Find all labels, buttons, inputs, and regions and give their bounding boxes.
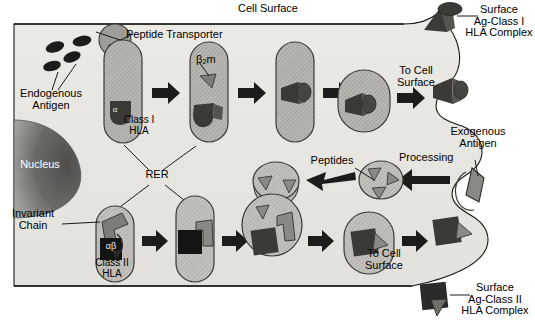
class-ii-vesicle-2	[176, 196, 214, 282]
pathway-illustration	[0, 0, 535, 326]
label-surface-ag-class-ii: Surface Ag-Class II HLA Complex	[455, 282, 535, 317]
label-peptide-transporter: Peptide Transporter	[126, 29, 223, 41]
diagram-canvas: Cell Surface Peptide Transporter Endogen…	[0, 0, 535, 326]
label-rer: RER	[138, 169, 176, 181]
class-i-vesicle-4	[338, 70, 390, 132]
label-to-cell-surface-top: To Cell Surface	[392, 65, 440, 88]
label-class-i-hla: Class I HLA	[112, 115, 166, 136]
label-surface-ag-class-i: Surface Ag-Class I HLA Complex	[462, 4, 535, 39]
label-exogenous-antigen: Exogenous Antigen	[440, 126, 516, 149]
label-endogenous-antigen: Endogenous Antigen	[8, 88, 94, 111]
label-to-cell-surface-bottom: To Cell Surface	[360, 248, 408, 271]
label-class-ii-hla: Class II HLA	[84, 258, 140, 279]
surface-ag-class-i-complex	[424, 3, 462, 33]
label-invariant-chain: Invariant Chain	[2, 208, 64, 231]
label-peptides: Peptides	[304, 155, 360, 167]
label-alpha-chain: α	[108, 106, 122, 114]
label-beta2m: β₂m	[196, 54, 216, 66]
label-processing: Processing	[399, 152, 453, 164]
label-cell-surface: Cell Surface	[213, 3, 323, 15]
peptide-endosome	[359, 161, 403, 199]
label-alpha-beta: αβ	[101, 242, 121, 252]
label-nucleus: Nucleus	[10, 159, 70, 171]
surface-ag-class-ii-complex	[420, 282, 449, 316]
class-i-vesicle-3	[276, 42, 314, 142]
